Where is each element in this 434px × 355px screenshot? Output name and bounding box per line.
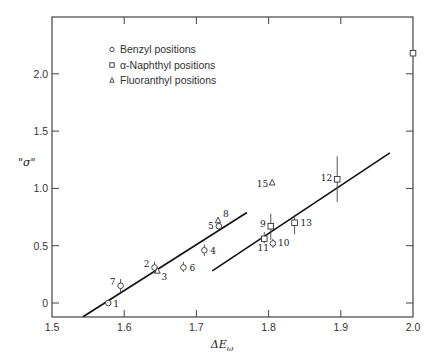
fit-line xyxy=(212,153,390,271)
y-tick-label: 0 xyxy=(42,297,48,309)
legend-label: Benzyl positions xyxy=(120,43,196,55)
triangle-marker-icon xyxy=(215,217,221,223)
data-point: 6 xyxy=(181,262,196,274)
square-marker-icon xyxy=(410,50,416,56)
data-point: 13 xyxy=(292,215,313,234)
point-label: 2 xyxy=(144,259,150,269)
x-tick-label: 1.5 xyxy=(45,321,60,333)
point-label: 5 xyxy=(208,221,214,231)
point-label: 9 xyxy=(260,219,266,229)
point-label: 4 xyxy=(210,246,216,256)
triangle-marker-icon xyxy=(110,78,114,82)
legend: Benzyl positionsα-Naphthyl positionsFluo… xyxy=(110,43,217,86)
x-axis-title: ΔEω xyxy=(210,338,234,353)
y-tick-label: 2.0 xyxy=(33,68,48,80)
scatter-chart: 1.51.61.71.81.92.000.51.01.52.0 17264510… xyxy=(0,0,434,355)
data-point: 4 xyxy=(202,245,217,257)
y-tick-label: 1.5 xyxy=(33,125,48,137)
circle-marker-icon xyxy=(181,265,187,271)
data-point: 10 xyxy=(270,238,290,248)
point-label: 6 xyxy=(189,263,195,273)
x-tick-label: 1.8 xyxy=(261,321,276,333)
legend-label: Fluoranthyl positions xyxy=(120,74,216,86)
data-point: 1 xyxy=(106,299,120,309)
x-axis-title-main: ΔE xyxy=(210,338,227,351)
circle-marker-icon xyxy=(110,47,114,51)
square-marker-icon xyxy=(292,220,298,226)
data-point xyxy=(410,50,416,56)
square-marker-icon xyxy=(110,63,114,67)
square-marker-icon xyxy=(268,223,274,229)
point-label: 10 xyxy=(278,238,290,248)
x-axis-title-sub: ω xyxy=(227,344,234,353)
legend-item: α-Naphthyl positions xyxy=(110,59,216,71)
circle-marker-icon xyxy=(202,247,208,253)
point-label: 8 xyxy=(223,209,229,219)
legend-label: α-Naphthyl positions xyxy=(120,59,215,71)
x-tick-label: 1.7 xyxy=(189,321,204,333)
x-tick-label: 2.0 xyxy=(406,321,421,333)
point-label: 15 xyxy=(257,179,269,189)
circle-marker-icon xyxy=(118,283,124,289)
point-label: 13 xyxy=(301,218,313,228)
point-label: 3 xyxy=(161,272,167,282)
circle-marker-icon xyxy=(216,223,222,229)
point-label: 7 xyxy=(110,277,116,287)
y-tick-label: 1.0 xyxy=(33,182,48,194)
x-tick-label: 1.9 xyxy=(333,321,348,333)
x-tick-label: 1.6 xyxy=(117,321,132,333)
legend-item: Fluoranthyl positions xyxy=(110,74,217,86)
legend-item: Benzyl positions xyxy=(110,43,196,55)
data-point: 15 xyxy=(257,179,275,189)
data-point: 8 xyxy=(215,209,229,222)
fit-lines xyxy=(83,153,390,317)
y-tick-label: 0.5 xyxy=(33,240,48,252)
axis-ticks xyxy=(52,17,413,317)
square-marker-icon xyxy=(261,236,267,242)
data-point: 12 xyxy=(321,156,340,202)
point-label: 1 xyxy=(113,299,119,309)
point-label: 12 xyxy=(321,173,332,183)
tick-labels: 1.51.61.71.81.92.000.51.01.52.0 xyxy=(33,68,420,333)
y-axis-title: "σ" xyxy=(18,156,36,169)
point-label: 11 xyxy=(258,243,269,253)
square-marker-icon xyxy=(334,176,340,182)
data-points: 1726451011913123815 xyxy=(106,50,416,309)
plot-frame xyxy=(52,17,413,317)
data-point: 7 xyxy=(110,277,124,293)
circle-marker-icon xyxy=(270,241,276,247)
triangle-marker-icon xyxy=(269,179,275,185)
data-point: 3 xyxy=(155,268,168,282)
circle-marker-icon xyxy=(106,300,112,306)
